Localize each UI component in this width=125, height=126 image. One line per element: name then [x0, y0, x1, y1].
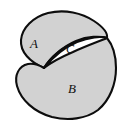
- region-a-label: A: [29, 36, 38, 51]
- blob-diagram-canvas: A C B: [0, 0, 125, 126]
- region-b-label: B: [68, 81, 76, 96]
- set-diagram-figure: A C B: [0, 0, 125, 126]
- region-c-label: C: [66, 42, 75, 56]
